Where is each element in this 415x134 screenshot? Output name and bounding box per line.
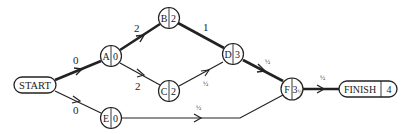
node-e-value: 0	[113, 113, 118, 124]
node-finish-value: 4	[387, 84, 392, 95]
edge-label-a-c: 2	[135, 80, 141, 92]
edge-label-start-e: 0	[73, 104, 79, 116]
edge-a-b	[120, 24, 160, 50]
node-f-value: 3	[293, 84, 298, 95]
node-c-value: 2	[171, 86, 176, 97]
node-start: START	[14, 77, 56, 93]
edge-d-f	[243, 60, 283, 81]
node-a: A 0	[101, 46, 122, 67]
node-finish: FINISH 4	[339, 81, 397, 97]
node-c: C 2	[159, 81, 180, 102]
edge-label-start-a: 0	[73, 54, 79, 66]
edge-label-b-d: 1	[203, 21, 209, 33]
edge-label-a-b: 2	[134, 22, 140, 34]
edge-f-finish	[303, 85, 339, 93]
node-e-label: E	[103, 113, 109, 124]
edge-label-d-f: ½	[265, 58, 270, 66]
node-a-value: 0	[113, 51, 118, 62]
node-d-value: 3	[235, 49, 240, 60]
node-e: E 0	[101, 108, 122, 129]
node-finish-label: FINISH	[344, 84, 376, 95]
node-d: D 3	[223, 44, 244, 65]
node-c-label: C	[161, 86, 168, 97]
edge-label-c-d: ½	[203, 80, 208, 88]
node-f-value-fraction: ½	[298, 89, 303, 95]
node-start-label: START	[19, 80, 51, 91]
node-b: B 2	[159, 8, 180, 29]
activity-network-diagram: 0 0 2 2 1 ½ ½ ½ ½ START A 0 B 2	[0, 0, 415, 134]
edge-label-f-finish: ½	[320, 74, 325, 82]
edge-e-f	[122, 95, 283, 122]
node-f-label: F	[284, 84, 290, 95]
edge-b-d	[178, 23, 224, 48]
node-d-label: D	[224, 49, 231, 60]
edge-c-d	[179, 62, 223, 86]
node-f: F 3 ½	[281, 78, 303, 100]
edge-label-e-f: ½	[196, 104, 201, 112]
node-a-label: A	[102, 51, 110, 62]
node-b-value: 2	[171, 13, 176, 24]
node-b-label: B	[161, 13, 168, 24]
